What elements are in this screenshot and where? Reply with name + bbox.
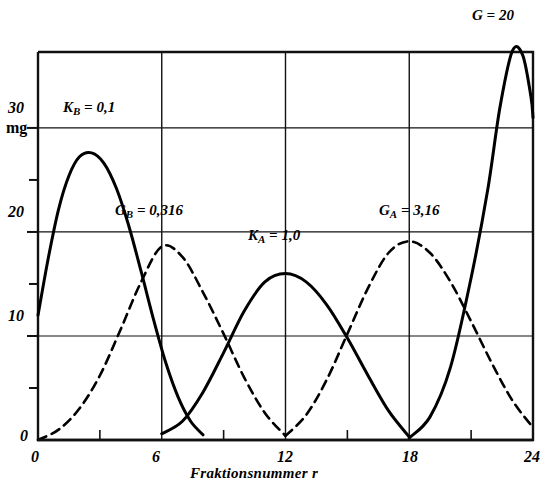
- curve-label-ka-value: = 1,0: [269, 227, 300, 243]
- y-tick-label-20: 20: [8, 204, 24, 220]
- y-axis-unit: mg: [6, 120, 27, 136]
- x-axis-title: Fraktionsnummer r: [190, 466, 318, 481]
- curve-label-ka-symbol: K: [248, 227, 258, 243]
- curve-label-ga: GA = 3,16: [379, 203, 440, 220]
- y-tick-label-0: 0: [20, 428, 28, 444]
- curve-label-ka: KA = 1,0: [248, 228, 300, 245]
- x-tick-label-24: 24: [524, 449, 540, 465]
- curve-label-g20-symbol: G: [472, 7, 483, 23]
- y-tick-label-30: 30: [8, 100, 24, 116]
- curve-label-kb: KB = 0,1: [63, 100, 115, 117]
- x-tick-label-18: 18: [402, 449, 418, 465]
- curve-label-ga-value: = 3,16: [401, 202, 440, 218]
- curve-label-g20: G = 20: [472, 8, 514, 23]
- curve-label-g20-value: = 20: [487, 7, 514, 23]
- curve-label-ga-symbol: G: [379, 202, 390, 218]
- x-tick-label-12: 12: [277, 449, 293, 465]
- curve-5: [409, 46, 533, 437]
- y-tick-label-10: 10: [8, 308, 24, 324]
- curve-label-kb-value: = 0,1: [84, 99, 115, 115]
- chart-figure: 30 mg 20 10 0 0 6 12 18 24 Fraktionsnumm…: [0, 0, 558, 490]
- curve-label-ga-sub: A: [390, 208, 397, 220]
- curve-label-ka-sub: A: [258, 233, 265, 245]
- curve-label-gb-symbol: G: [115, 202, 126, 218]
- curve-1: [38, 153, 203, 435]
- curve-label-gb-sub: B: [126, 208, 133, 220]
- curve-label-gb-value: = 0,316: [137, 202, 183, 218]
- curve-label-gb: GB = 0,316: [115, 203, 183, 220]
- curve-label-kb-sub: B: [73, 105, 80, 117]
- curve-label-kb-symbol: K: [63, 99, 73, 115]
- x-tick-label-6: 6: [152, 449, 160, 465]
- axis-ticks: [27, 128, 471, 440]
- x-tick-label-0: 0: [31, 449, 39, 465]
- plot-canvas: [0, 0, 558, 490]
